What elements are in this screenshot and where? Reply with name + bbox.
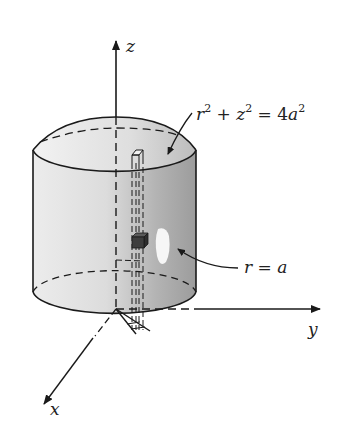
cylinder-sphere-diagram: z y x r2 + z2 = 4a2 r = a [0, 0, 344, 440]
svg-text:r2 + z2 = 4a2: r2 + z2 = 4a2 [196, 102, 305, 124]
svg-text:r = a: r = a [244, 257, 287, 277]
x-axis [44, 338, 93, 404]
z-axis-label: z [125, 36, 136, 56]
volume-element-cube [132, 233, 148, 248]
sphere-cap [33, 117, 196, 171]
x-axis-label: x [50, 399, 60, 419]
cylinder-body [33, 150, 196, 313]
y-axis-label: y [307, 319, 318, 339]
